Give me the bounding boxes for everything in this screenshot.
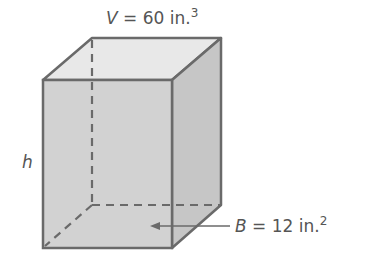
prism-front-face	[43, 80, 172, 248]
volume-label: V = 60 in.3	[106, 6, 198, 28]
base-area-label: B = 12 in.2	[235, 214, 327, 236]
prism-diagram: V = 60 in.3 h B = 12 in.2	[0, 0, 371, 263]
height-label: h	[22, 152, 33, 172]
